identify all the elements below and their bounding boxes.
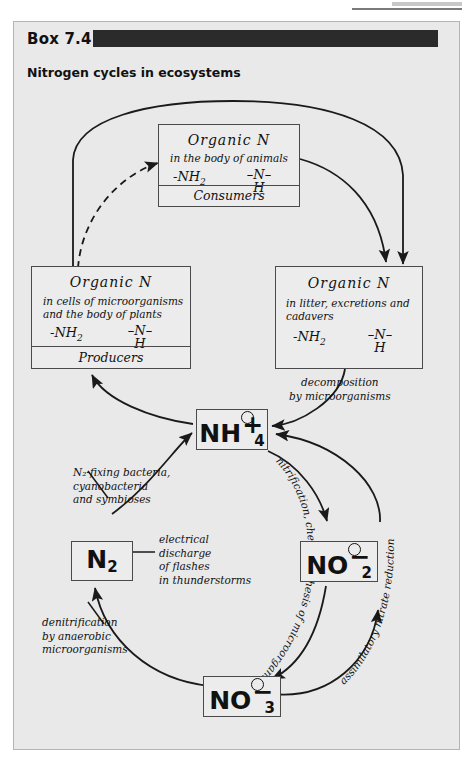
consumers-subtitle: in the body of animals [159, 152, 299, 165]
arrow-consumers-to-litter [300, 159, 386, 262]
nitrite-formula: NO−2 [306, 543, 372, 581]
producers-subtitle: in cells of microorganisms and the body … [43, 295, 190, 321]
node-consumers: Organic N in the body of animals -NH2 –N… [158, 124, 300, 207]
node-nitrate: NO−3 [203, 676, 281, 717]
arrow-ammonium-to-producers [92, 375, 193, 424]
nitrite-charge: − [348, 543, 361, 556]
nitrate-formula: NO−3 [209, 678, 275, 716]
figure-page: Box 7.4 Nitrogen cycles in ecosystems [0, 0, 471, 761]
node-litter: Organic N in litter, excretions and cada… [275, 266, 423, 369]
producers-formula-left: -NH2 [50, 325, 83, 343]
producers-footer: Producers [32, 346, 190, 368]
node-nitrite: NO−2 [300, 541, 378, 582]
consumers-title: Organic N [159, 132, 299, 148]
dinitrogen-formula: N2 [86, 547, 117, 575]
ammonium-charge: + [241, 411, 254, 424]
annotation-nitrogen-fixation: N₂-fixing bacteria, cyanobacteria and sy… [73, 466, 170, 507]
annotation-denitrification: denitrification by anaerobic microorgani… [42, 616, 128, 657]
node-producers: Organic N in cells of microorganisms and… [31, 266, 191, 369]
litter-title: Organic N [276, 275, 422, 291]
litter-subtitle: in litter, excretions and cadavers [286, 297, 422, 323]
node-ammonium: NH+4 [196, 409, 268, 450]
producers-title: Organic N [32, 274, 190, 290]
node-dinitrogen: N2 [71, 541, 133, 581]
consumers-footer: Consumers [159, 185, 299, 206]
ammonium-formula: NH+4 [199, 411, 264, 449]
arrow-producers-to-consumers-dashed [78, 163, 158, 268]
consumers-formula-left: -NH2 [173, 169, 206, 187]
annotation-decomposition: decomposition by microorganisms [289, 376, 391, 403]
litter-formula-right: –N– H [360, 327, 400, 355]
annotation-electrical-discharge: electrical discharge of flashes in thund… [159, 533, 251, 588]
nitrate-charge: − [251, 678, 264, 691]
litter-formula-left: -NH2 [293, 329, 326, 347]
